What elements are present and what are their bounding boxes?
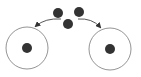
diagram-canvas: [0, 0, 141, 77]
particle-right: [105, 44, 115, 54]
arrow-right-icon: [78, 19, 100, 27]
source-particles: [53, 7, 84, 29]
container-circle-left: [6, 27, 48, 69]
diagram: [0, 0, 141, 77]
source-particle-1: [53, 8, 63, 18]
source-particle-3: [63, 19, 73, 29]
source-particle-2: [74, 7, 84, 17]
container-circle-right: [89, 28, 131, 70]
particle-left: [22, 43, 32, 53]
arrow-left-icon: [36, 19, 61, 26]
